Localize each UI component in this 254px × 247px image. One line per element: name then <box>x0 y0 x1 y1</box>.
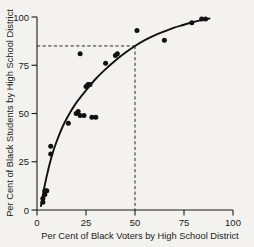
y-tick-label-25: 25 <box>18 156 29 167</box>
data-point <box>93 115 98 120</box>
data-point <box>115 51 120 56</box>
data-point <box>134 28 139 33</box>
x-tick-label-25: 25 <box>81 217 92 228</box>
data-point <box>48 152 53 157</box>
y-tick-label-0: 0 <box>24 205 29 216</box>
x-tick-label-0: 0 <box>34 217 39 228</box>
chart-svg: 100 75 50 25 0 0 25 50 75 100 Per Cent o… <box>0 0 254 247</box>
data-point <box>82 113 87 118</box>
y-tick-label-100: 100 <box>13 12 29 23</box>
data-point <box>203 16 208 21</box>
figure-caption <box>0 240 254 247</box>
y-axis-title: Per Cent of Black Students by High Schoo… <box>5 9 15 217</box>
x-tick-label-75: 75 <box>179 217 190 228</box>
x-tick-label-50: 50 <box>130 217 141 228</box>
data-point <box>44 188 49 193</box>
data-point <box>78 51 83 56</box>
data-point <box>103 61 108 66</box>
x-tick-label-100: 100 <box>225 217 241 228</box>
data-point <box>66 121 71 126</box>
data-point <box>162 38 167 43</box>
y-tick-label-50: 50 <box>18 108 29 119</box>
data-point <box>48 144 53 149</box>
y-tick-label-75: 75 <box>18 60 29 71</box>
data-point <box>87 82 92 87</box>
data-point <box>189 20 194 25</box>
figure-scatter-plot: 100 75 50 25 0 0 25 50 75 100 Per Cent o… <box>0 0 254 247</box>
